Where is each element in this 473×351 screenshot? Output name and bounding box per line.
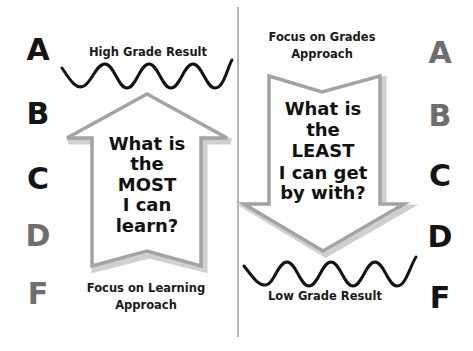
low-grade-wave-icon: [244, 257, 416, 286]
diagram-canvas: A B C D F High Grade Result What is the …: [0, 0, 473, 351]
high-grade-wave-icon: [62, 60, 232, 88]
right-grade-scale: A B C D F: [428, 35, 453, 315]
high-grade-result-label: High Grade Result: [89, 45, 208, 59]
left-grade-f: F: [28, 276, 49, 311]
left-grade-b: B: [27, 96, 50, 131]
least-get-by-question: What is the LEAST I can get by with?: [279, 98, 368, 203]
approach-title-line: Approach: [291, 47, 353, 61]
question-line: MOST: [118, 174, 177, 195]
question-line: What is: [109, 133, 186, 154]
question-line: by with?: [280, 182, 366, 203]
question-line: the: [306, 119, 340, 140]
question-line: the: [130, 153, 164, 174]
learning-approach-title: Focus on Learning Approach: [87, 281, 205, 312]
grades-approach-title: Focus on Grades Approach: [269, 30, 376, 61]
left-panel: A B C D F High Grade Result What is the …: [26, 32, 232, 312]
left-grade-c: C: [27, 161, 49, 196]
right-grade-b: B: [429, 98, 452, 133]
left-grade-d: D: [26, 218, 51, 253]
question-line: I can get: [279, 162, 368, 183]
right-grade-f: F: [430, 280, 451, 315]
left-grade-a: A: [26, 32, 50, 67]
right-grade-c: C: [429, 158, 451, 193]
right-grade-a: A: [428, 35, 452, 70]
question-line: LEAST: [292, 140, 356, 161]
left-grade-scale: A B C D F: [26, 32, 51, 311]
approach-title-line: Focus on Learning: [87, 281, 205, 295]
approach-title-line: Focus on Grades: [269, 30, 376, 44]
most-learn-question: What is the MOST I can learn?: [109, 133, 186, 236]
question-line: learn?: [116, 215, 179, 236]
question-line: What is: [285, 98, 362, 119]
question-line: I can: [123, 194, 172, 215]
right-panel: Focus on Grades Approach What is the LEA…: [244, 30, 452, 315]
approach-title-line: Approach: [115, 298, 177, 312]
low-grade-result-label: Low Grade Result: [268, 289, 382, 303]
right-grade-d: D: [428, 219, 453, 254]
